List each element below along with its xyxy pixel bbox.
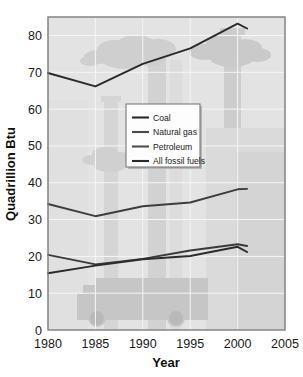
x-axis-title: Year: [152, 355, 179, 370]
ytick-label-70: 70: [28, 66, 42, 80]
legend-label-coal: Coal: [153, 113, 171, 123]
ytick-label-10: 10: [28, 287, 42, 301]
y-axis-title: Quadrillion Btu: [3, 127, 18, 221]
xtick-label-1985: 1985: [81, 337, 109, 351]
legend-label-natural-gas: Natural gas: [153, 127, 197, 137]
ytick-label-80: 80: [28, 29, 42, 43]
ytick-label-40: 40: [28, 176, 42, 190]
xtick-label-1995: 1995: [176, 337, 204, 351]
legend-label-petroleum: Petroleum: [153, 142, 192, 152]
building-block-right-2: [236, 152, 286, 330]
xtick-label-1990: 1990: [129, 337, 157, 351]
xtick-label-2005: 2005: [271, 337, 299, 351]
ytick-label-20: 20: [28, 250, 42, 264]
ytick-label-30: 30: [28, 213, 42, 227]
chart-container: 0 10 20 30 40 50 60 70 80 1980 1985 1990…: [0, 0, 303, 377]
xtick-label-1980: 1980: [34, 337, 62, 351]
ytick-label-60: 60: [28, 103, 42, 117]
legend-label-all-fossil-fuels: All fossil fuels: [153, 156, 205, 166]
x-axis-tick-labels: 1980 1985 1990 1995 2000 2005: [34, 337, 299, 351]
y-axis-tick-labels: 0 10 20 30 40 50 60 70 80: [28, 29, 42, 338]
chart-legend: Coal Natural gas Petroleum All fossil fu…: [126, 104, 205, 169]
stack-cap-1: [101, 96, 121, 102]
ytick-label-0: 0: [35, 324, 42, 338]
fossil-fuel-consumption-line-chart: 0 10 20 30 40 50 60 70 80 1980 1985 1990…: [0, 0, 303, 377]
ytick-label-50: 50: [28, 139, 42, 153]
xtick-label-2000: 2000: [224, 337, 252, 351]
